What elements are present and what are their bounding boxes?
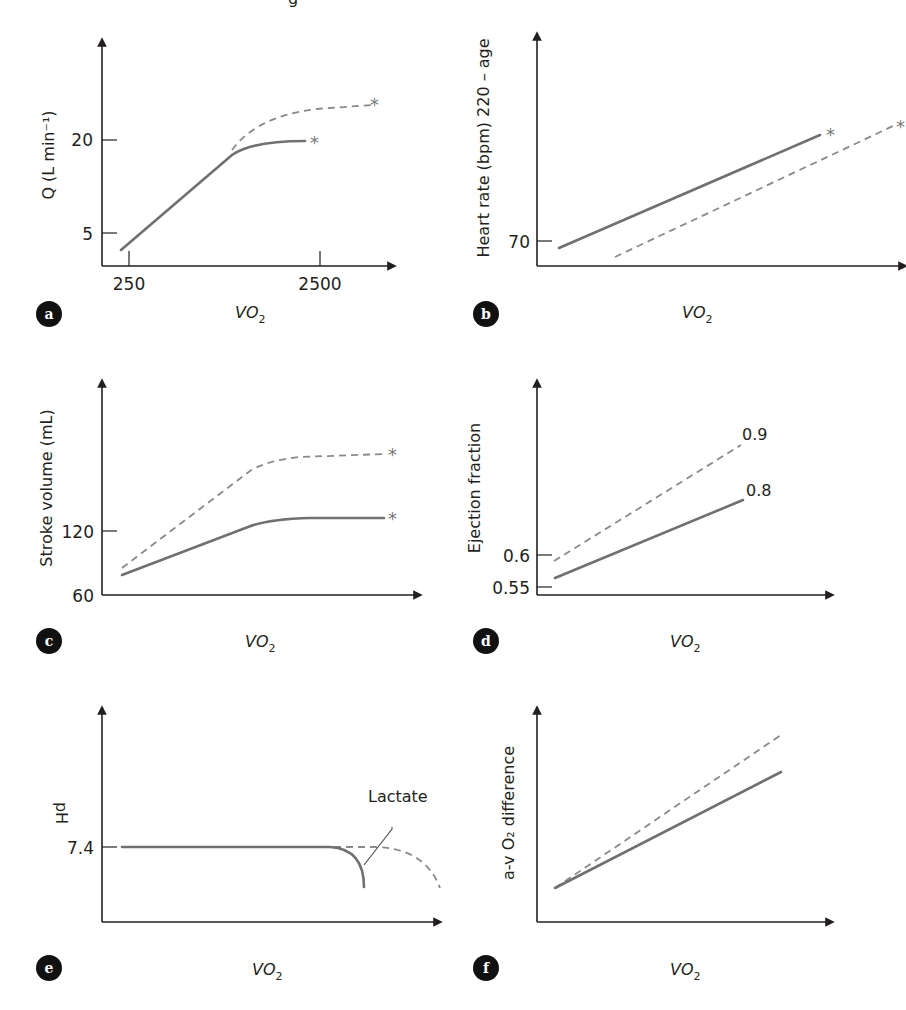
y-tick-label: 120	[62, 522, 94, 542]
x-tick-label: 250	[113, 274, 145, 294]
panel-b: 70 Heart rate (bpm) 220 – age VO2 * * b	[473, 36, 905, 327]
trained-curve	[122, 454, 384, 568]
lactate-label: Lactate	[368, 787, 428, 806]
panel-c: 120 60 Stroke volume (mL) VO2 * * c	[36, 383, 418, 655]
y-tick-label: 7.4	[67, 838, 94, 858]
y-axis-label: Q (L min⁻¹)	[39, 110, 58, 199]
x-axis-label: VO2	[252, 960, 283, 983]
line-label-0-8: 0.8	[746, 481, 771, 500]
untrained-line	[559, 135, 820, 248]
panel-badge-label: c	[45, 633, 54, 649]
panel-e: 7.4 pH VO2 Lactate e	[36, 710, 440, 983]
x-axis-label: VO2	[670, 632, 701, 655]
panel-a: 20 5 250 2500 Q (L min⁻¹) VO2 * * a	[36, 42, 392, 327]
y-tick-label: 0.6	[503, 546, 530, 566]
line-label-0-9: 0.9	[742, 425, 767, 444]
y-axis-label: a-v O₂ difference	[499, 746, 518, 880]
y-tick-label: 60	[72, 586, 94, 606]
x-tick-label: 2500	[298, 274, 341, 294]
x-axis-label: VO2	[682, 303, 713, 326]
untrained-curve	[122, 847, 364, 887]
panel-badge-label: f	[483, 960, 490, 976]
max-marker: *	[388, 444, 397, 465]
lactate-leader-line	[364, 827, 392, 865]
panel-badge-label: e	[45, 960, 54, 976]
panel-badge-label: b	[481, 306, 491, 322]
max-marker: *	[388, 508, 397, 529]
untrained-curve	[122, 518, 384, 575]
solid-line	[555, 500, 743, 578]
solid-line	[555, 772, 781, 888]
max-marker: *	[370, 94, 379, 115]
panel-f: a-v O₂ difference VO2 f	[473, 710, 830, 983]
x-axis-label: VO2	[235, 303, 266, 326]
y-axis-label: Heart rate (bpm) 220 – age	[474, 38, 493, 257]
top-text-fragment: g	[288, 0, 298, 8]
untrained-curve	[121, 141, 305, 250]
y-axis-label: Stroke volume (mL)	[37, 409, 56, 566]
y-tick-label: 0.55	[492, 578, 530, 598]
dashed-line	[554, 445, 741, 561]
max-marker: *	[896, 116, 905, 137]
y-axis-label: Ejection fraction	[465, 423, 484, 553]
figure-canvas: g 20 5 250 2500 Q (L min⁻¹) VO2 * * a 70…	[0, 0, 906, 1010]
y-tick-label: 5	[82, 224, 93, 244]
y-tick-label: 70	[508, 232, 530, 252]
trained-curve	[232, 105, 372, 150]
panel-badge-label: d	[481, 633, 491, 649]
y-axis-label: pH	[52, 802, 71, 824]
dashed-line	[555, 735, 781, 888]
trained-line	[615, 126, 893, 257]
max-marker: *	[826, 124, 835, 145]
x-axis-label: VO2	[245, 632, 276, 655]
panel-badge-label: a	[44, 306, 53, 322]
max-marker: *	[310, 132, 319, 153]
y-tick-label: 20	[71, 130, 93, 150]
panel-d: 0.6 0.55 Ejection fraction VO2 0.9 0.8 d	[465, 383, 830, 655]
x-axis-label: VO2	[670, 960, 701, 983]
